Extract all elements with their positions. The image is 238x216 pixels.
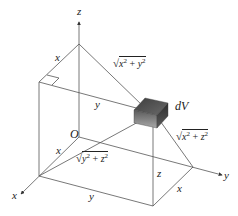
edge-label-top-x: x: [55, 52, 60, 63]
x-axis-label: x: [12, 190, 17, 201]
dist-label-x-axis: √y2 + z2: [76, 153, 108, 164]
exponent: 2: [105, 152, 109, 160]
edge-label-vertical-z: z: [157, 168, 161, 179]
moment-of-inertia-diagram: [0, 0, 238, 216]
edge-label-bottom-y: y: [89, 191, 94, 202]
edge-bottom-y: [39, 176, 153, 206]
edge-dist-z: [79, 44, 144, 107]
edge-dist-x: [39, 121, 140, 176]
operator: +: [90, 153, 101, 164]
edge-label-top-y: y: [95, 99, 100, 110]
origin-label: O: [70, 128, 79, 140]
dist-label-z-axis: √x2 + y2: [113, 58, 146, 69]
exponent: 2: [142, 57, 146, 65]
edge-top-x: [39, 44, 79, 82]
z-axis-label: z: [77, 6, 81, 17]
y-axis-label: y: [224, 170, 229, 181]
edge-top-y: [39, 82, 140, 109]
edge-label-right-x: x: [177, 183, 182, 194]
right-angle-marker: [47, 75, 59, 85]
operator: +: [127, 58, 138, 69]
radicand: x2 + y2: [119, 56, 146, 69]
edge-label-left-x: x: [56, 145, 61, 156]
dist-label-y-axis: √x2 + z2: [176, 131, 208, 142]
dv-label: dV: [175, 100, 188, 112]
operator: +: [190, 131, 201, 142]
x-axis: [21, 137, 79, 194]
radicand: x2 + z2: [182, 129, 208, 142]
radicand: y2 + z2: [82, 151, 108, 164]
exponent: 2: [205, 130, 209, 138]
